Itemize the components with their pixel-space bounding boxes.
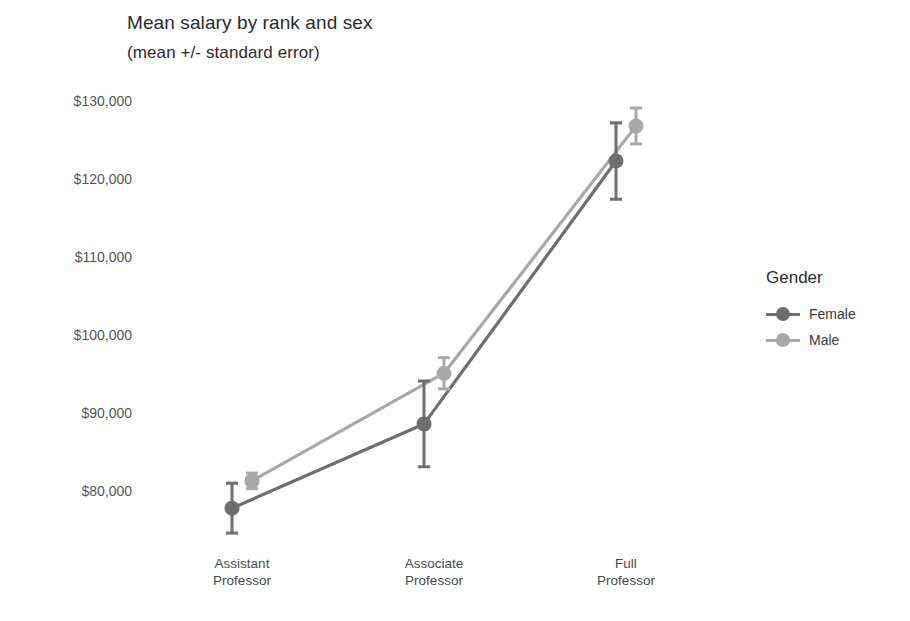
x-tick-label-line: Associate [405,555,464,572]
datapoint-female-2 [609,123,624,199]
x-tick-label-line: Professor [405,572,464,589]
data-marker [629,118,644,133]
datapoint-male-0 [245,473,260,489]
legend-item-female[interactable]: Female [766,301,906,327]
data-marker [245,473,260,488]
datapoint-female-0 [225,483,240,533]
salary-line-chart: Mean salary by rank and sex (mean +/- st… [0,0,910,621]
datapoint-female-1 [417,381,432,467]
datapoint-male-2 [629,108,644,144]
data-marker [437,366,452,381]
x-tick-label: AssociateProfessor [405,555,464,589]
x-tick-label: AssistantProfessor [213,555,271,589]
x-tick-label-line: Professor [213,572,271,589]
x-tick-label-line: Professor [597,572,655,589]
legend-key-dot [776,333,790,347]
x-tick-label-line: Full [597,555,655,572]
data-marker [225,501,240,516]
legend-label: Male [809,332,839,348]
x-tick-label-line: Assistant [213,555,271,572]
legend-key-dot [776,307,790,321]
legend-marker-icon [766,305,800,323]
legend-label: Female [809,306,856,322]
legend-item-male[interactable]: Male [766,327,906,353]
datapoint-male-1 [437,358,452,389]
legend-marker-icon [766,331,800,349]
legend: Gender FemaleMale [766,268,906,353]
x-tick-label: FullProfessor [597,555,655,589]
legend-title: Gender [766,268,906,288]
data-marker [417,416,432,431]
data-marker [609,154,624,169]
series-line-male [252,126,636,481]
